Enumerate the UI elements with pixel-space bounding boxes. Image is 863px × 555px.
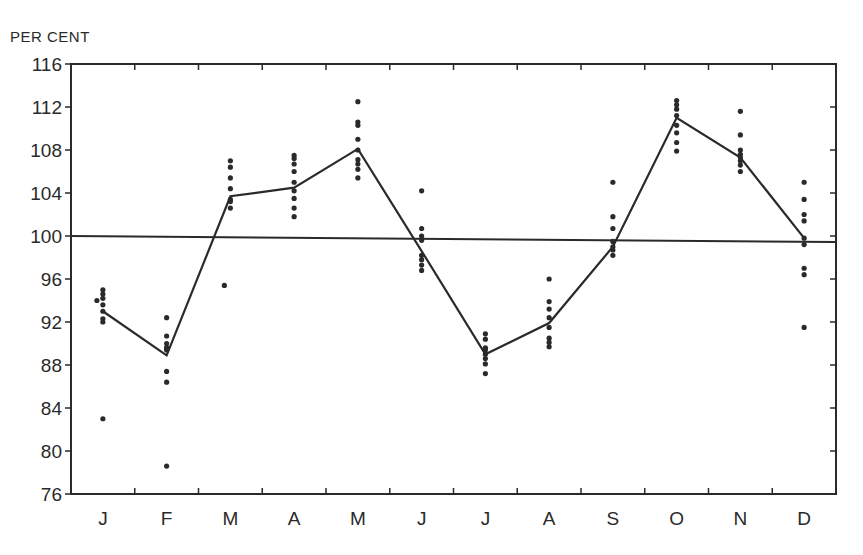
data-point xyxy=(419,188,424,193)
data-point xyxy=(419,233,424,238)
reference-line-100 xyxy=(71,236,836,242)
data-point xyxy=(228,186,233,191)
data-point xyxy=(802,180,807,185)
data-point xyxy=(355,161,360,166)
data-point xyxy=(164,463,169,468)
data-point xyxy=(738,132,743,137)
data-point xyxy=(355,99,360,104)
data-point xyxy=(483,356,488,361)
data-point xyxy=(674,148,679,153)
y-tick-label: 100 xyxy=(30,226,62,247)
data-point xyxy=(483,337,488,342)
seasonal-index-chart: 768084889296100104108112116 JFMAMJJASOND xyxy=(0,0,863,555)
data-point xyxy=(674,98,679,103)
data-point xyxy=(674,140,679,145)
data-point xyxy=(222,283,227,288)
data-point xyxy=(802,212,807,217)
data-point xyxy=(355,167,360,172)
data-point xyxy=(292,153,297,158)
y-tick-label: 96 xyxy=(41,269,62,290)
data-point xyxy=(674,130,679,135)
data-point xyxy=(547,344,552,349)
data-point xyxy=(100,302,105,307)
data-point xyxy=(610,226,615,231)
data-point xyxy=(164,369,169,374)
x-tick-label: M xyxy=(222,508,238,529)
data-point xyxy=(802,266,807,271)
x-tick-label: O xyxy=(669,508,684,529)
x-tick-label: M xyxy=(350,508,366,529)
data-point xyxy=(100,416,105,421)
data-point xyxy=(547,307,552,312)
x-tick-label: S xyxy=(607,508,620,529)
data-point xyxy=(802,325,807,330)
y-tick-label: 80 xyxy=(41,441,62,462)
data-point xyxy=(164,315,169,320)
data-point xyxy=(228,205,233,210)
x-tick-label: F xyxy=(161,508,173,529)
data-point xyxy=(419,226,424,231)
y-tick-label: 76 xyxy=(41,484,62,505)
data-point xyxy=(483,361,488,366)
data-point xyxy=(419,268,424,273)
baseline-100 xyxy=(71,236,836,242)
y-tick-label: 84 xyxy=(41,398,63,419)
data-point xyxy=(164,333,169,338)
data-point xyxy=(94,298,99,303)
y-tick-label: 112 xyxy=(32,97,62,118)
data-point xyxy=(419,257,424,262)
data-point xyxy=(483,371,488,376)
data-point xyxy=(802,272,807,277)
y-tick-label: 108 xyxy=(30,140,62,161)
data-point xyxy=(292,188,297,193)
x-tick-label: A xyxy=(543,508,556,529)
data-point xyxy=(738,147,743,152)
data-point xyxy=(547,325,552,330)
x-tick-label: D xyxy=(797,508,811,529)
plot-frame xyxy=(71,64,836,494)
x-tick-label: J xyxy=(481,508,491,529)
data-point xyxy=(355,119,360,124)
data-point xyxy=(355,175,360,180)
data-point xyxy=(355,137,360,142)
data-point xyxy=(228,175,233,180)
y-axis: 768084889296100104108112116 xyxy=(30,54,836,505)
x-tick-label: N xyxy=(734,508,748,529)
data-point xyxy=(547,276,552,281)
data-point xyxy=(738,162,743,167)
data-point xyxy=(610,214,615,219)
data-point xyxy=(802,197,807,202)
data-point xyxy=(610,180,615,185)
data-point xyxy=(738,169,743,174)
data-point xyxy=(802,242,807,247)
data-point xyxy=(100,319,105,324)
data-point xyxy=(228,158,233,163)
data-point xyxy=(164,380,169,385)
plot-border xyxy=(71,64,836,494)
scatter-points xyxy=(94,98,806,469)
data-point xyxy=(610,253,615,258)
data-point xyxy=(292,196,297,201)
y-tick-label: 92 xyxy=(41,312,62,333)
x-tick-label: J xyxy=(98,508,108,529)
data-point xyxy=(483,331,488,336)
data-point xyxy=(802,218,807,223)
data-point xyxy=(292,214,297,219)
x-tick-label: A xyxy=(288,508,301,529)
data-point xyxy=(292,161,297,166)
data-point xyxy=(419,262,424,267)
data-point xyxy=(100,287,105,292)
y-tick-label: 104 xyxy=(30,183,62,204)
data-point xyxy=(292,205,297,210)
x-tick-label: J xyxy=(417,508,427,529)
y-tick-label: 116 xyxy=(32,54,62,75)
data-point xyxy=(292,180,297,185)
data-point xyxy=(547,299,552,304)
data-point xyxy=(292,169,297,174)
data-point xyxy=(738,109,743,114)
y-tick-label: 88 xyxy=(41,355,62,376)
data-point xyxy=(228,165,233,170)
